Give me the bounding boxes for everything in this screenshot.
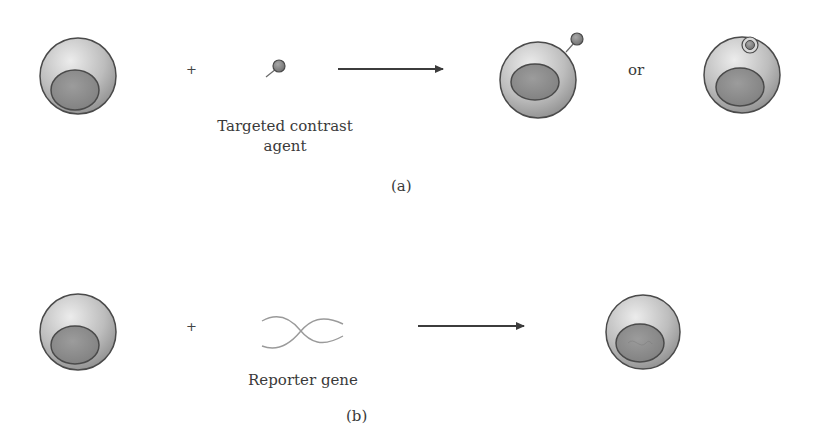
cell-a-initial xyxy=(40,38,116,114)
diagram-canvas xyxy=(0,0,819,436)
or-label: or xyxy=(628,60,644,80)
plus-sign-b: + xyxy=(186,319,197,334)
cell-b-initial xyxy=(40,294,116,370)
reporter-gene-label: Reporter gene xyxy=(243,370,363,390)
cell-a-internalized xyxy=(704,37,780,113)
cell-b-expressing xyxy=(606,295,680,369)
plus-sign-a: + xyxy=(186,62,197,77)
reporter-gene-icon xyxy=(262,317,343,348)
agent-label-line2: agent xyxy=(195,136,375,156)
caption-a: (a) xyxy=(391,176,412,196)
contrast-agent-icon xyxy=(266,60,285,77)
cell-a-surface-bound xyxy=(500,33,583,118)
agent-label-line1: Targeted contrast xyxy=(195,116,375,136)
caption-b: (b) xyxy=(346,406,367,426)
agent-label: Targeted contrast agent xyxy=(195,116,375,156)
